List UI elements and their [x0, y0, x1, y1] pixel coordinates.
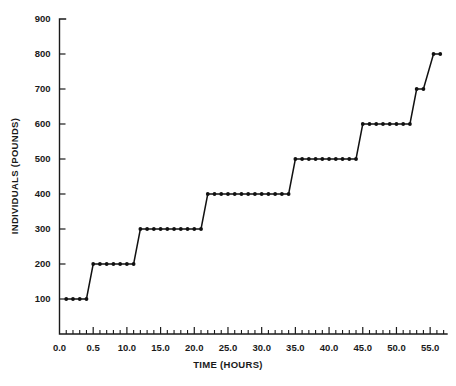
data-point [361, 122, 365, 126]
data-point [368, 122, 372, 126]
data-point [112, 262, 116, 266]
data-point [206, 192, 210, 196]
data-point [179, 227, 183, 231]
y-axis-tick-labels: 100200300400500600700800900 [35, 13, 51, 304]
data-point [145, 227, 149, 231]
data-point [125, 262, 129, 266]
data-point [280, 192, 284, 196]
data-point [408, 122, 412, 126]
data-point [438, 52, 442, 56]
data-point [314, 157, 318, 161]
figure-container: 100200300400500600700800900 0.00.510.015… [0, 0, 456, 386]
data-point [388, 122, 392, 126]
data-point [152, 227, 156, 231]
data-point [334, 157, 338, 161]
x-tick-label: 40.0 [320, 342, 339, 353]
data-point [186, 227, 190, 231]
data-point [293, 157, 297, 161]
y-tick-label: 800 [35, 48, 51, 59]
figure-caption [0, 376, 456, 386]
data-point [300, 157, 304, 161]
data-point [260, 192, 264, 196]
x-tick-label: 25.0 [219, 342, 238, 353]
data-point [422, 87, 426, 91]
axes [60, 19, 448, 334]
x-tick-label: 50.0 [387, 342, 406, 353]
axis-lines [60, 19, 448, 334]
data-point [395, 122, 399, 126]
data-point [71, 297, 75, 301]
x-tick-label: 0.0 [53, 342, 66, 353]
data-point [341, 157, 345, 161]
data-point [132, 262, 136, 266]
data-point [192, 227, 196, 231]
x-tick-label: 20.0 [185, 342, 204, 353]
data-point [172, 227, 176, 231]
data-point [138, 227, 142, 231]
data-point [374, 122, 378, 126]
data-point [273, 192, 277, 196]
x-tick-label: 10.0 [118, 342, 137, 353]
data-point [432, 52, 436, 56]
data-point [233, 192, 237, 196]
data-series [64, 52, 442, 301]
data-point [287, 192, 291, 196]
data-point [64, 297, 68, 301]
x-tick-label: 30.0 [252, 342, 271, 353]
data-point [415, 87, 419, 91]
y-axis-title: INDIVIDUALS (POUNDS) [9, 118, 20, 234]
y-axis-ticks [60, 54, 66, 299]
data-point [219, 192, 223, 196]
data-point [226, 192, 230, 196]
data-point [118, 262, 122, 266]
data-point [354, 157, 358, 161]
data-point [240, 192, 244, 196]
x-tick-label: 45.0 [354, 342, 373, 353]
x-axis-title: TIME (HOURS) [193, 359, 263, 370]
data-point [98, 262, 102, 266]
data-point [91, 262, 95, 266]
data-point [213, 192, 217, 196]
x-tick-label: 0.5 [87, 342, 101, 353]
series-markers-individuals [64, 52, 442, 301]
y-tick-label: 100 [35, 293, 51, 304]
data-point [327, 157, 331, 161]
y-tick-label: 200 [35, 258, 51, 269]
y-tick-label: 600 [35, 118, 51, 129]
data-point [267, 192, 271, 196]
data-point [78, 297, 82, 301]
x-axis-major-ticks [93, 327, 430, 334]
series-line-individuals [66, 54, 440, 299]
y-tick-label: 900 [35, 13, 51, 24]
x-axis-tick-labels: 0.00.510.015.020.025.030.035.040.045.050… [53, 342, 440, 353]
x-tick-label: 35.0 [286, 342, 305, 353]
data-point [320, 157, 324, 161]
data-point [253, 192, 257, 196]
data-point [165, 227, 169, 231]
data-point [105, 262, 109, 266]
data-point [85, 297, 89, 301]
y-tick-label: 300 [35, 223, 51, 234]
x-tick-label: 15.0 [151, 342, 170, 353]
y-tick-label: 500 [35, 153, 51, 164]
data-point [246, 192, 250, 196]
data-point [159, 227, 163, 231]
x-tick-label: 55.0 [421, 342, 440, 353]
data-point [347, 157, 351, 161]
y-tick-label: 700 [35, 83, 51, 94]
step-chart: 100200300400500600700800900 0.00.510.015… [0, 0, 456, 386]
data-point [307, 157, 311, 161]
data-point [381, 122, 385, 126]
y-tick-label: 400 [35, 188, 51, 199]
data-point [401, 122, 405, 126]
data-point [199, 227, 203, 231]
